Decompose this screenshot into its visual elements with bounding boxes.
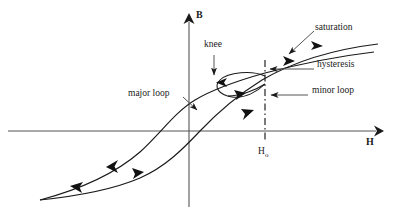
- annotation-hysteresis: hysteresis: [317, 60, 354, 70]
- curve-upper-branch: [40, 52, 374, 200]
- annotation-saturation: saturation: [315, 23, 352, 33]
- axis-label-B: B: [196, 10, 203, 20]
- h0-subscript: o: [265, 151, 269, 159]
- annotation-minor-loop: minor loop: [312, 86, 354, 96]
- h0-base: H: [258, 146, 265, 156]
- annotation-major-loop: major loop: [128, 89, 169, 99]
- annotation-knee: knee: [204, 40, 222, 50]
- major-loop-leader-line: [183, 97, 197, 110]
- diagram-canvas: [0, 0, 396, 221]
- direction-arrow-ascending: [241, 109, 254, 120]
- saturation-leader-line: [289, 31, 314, 54]
- axis-label-H: H: [366, 137, 374, 147]
- axis-vertical-B: [184, 13, 195, 207]
- h0-marker-label: Ho: [258, 147, 268, 159]
- direction-arrow-lower-left: [70, 182, 83, 193]
- direction-arrow-saturation: [311, 41, 323, 50]
- hysteresis-diagram: B H Ho knee saturation hysteresis minor …: [0, 0, 396, 221]
